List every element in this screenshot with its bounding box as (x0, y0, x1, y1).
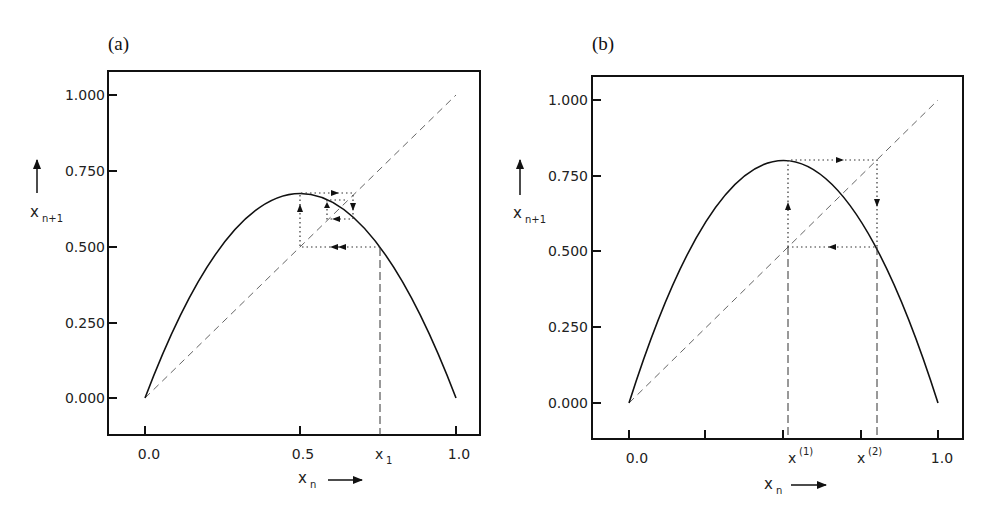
y-tick-label: 1.000 (548, 92, 588, 108)
y-tick-label: 0.750 (548, 168, 588, 184)
svg-text:n+1: n+1 (42, 213, 63, 224)
y-tick-label: 0.000 (65, 390, 105, 406)
x1-cycle-label: x (788, 450, 796, 466)
svg-text:n: n (310, 479, 316, 490)
y-tick-label: 0.500 (548, 243, 588, 259)
svg-text:n+1: n+1 (525, 214, 546, 225)
x-tick-label: 0.5 (292, 446, 314, 462)
svg-text:n: n (776, 485, 782, 496)
x-tick-label: 0.0 (626, 450, 648, 466)
panel-b-y-label: x n+1 (513, 160, 546, 225)
x-tick-label: 1.0 (931, 450, 953, 466)
panel-a-x-axis: 0.0 0.5 1.0 x 1 (138, 426, 470, 466)
svg-text:x: x (30, 203, 39, 221)
y-tick-label: 0.250 (548, 319, 588, 335)
panel-a-x-label: x n (298, 469, 362, 490)
y-tick-label: 0.750 (65, 163, 105, 179)
svg-text:1: 1 (386, 455, 392, 466)
y-tick-label: 0.500 (65, 239, 105, 255)
y-tick-label: 0.250 (65, 315, 105, 331)
x2-cycle-label: x (857, 450, 865, 466)
cobweb-path (297, 190, 380, 250)
panel-b-label: (b) (592, 33, 614, 55)
svg-text:x: x (764, 475, 773, 493)
x-tick-label: 0.0 (138, 446, 160, 462)
y-tick-label: 0.000 (548, 395, 588, 411)
two-cycle-path (785, 157, 880, 250)
panel-a-label: (a) (108, 33, 129, 55)
svg-text:x: x (513, 204, 522, 222)
figure: (a) 1.000 0.750 0.500 0.250 0.000 x n+1 … (0, 0, 990, 516)
panel-b-y-axis: 1.000 0.750 0.500 0.250 0.000 (548, 92, 601, 411)
panel-a-y-axis: 1.000 0.750 0.500 0.250 0.000 (65, 87, 117, 406)
logistic-curve (629, 161, 938, 404)
panel-b-x-axis: 0.0 1.0 x (1) x (2) (626, 430, 953, 466)
x-tick-label: 1.0 (448, 446, 470, 462)
panel-b-x-label: x n (764, 475, 826, 496)
diagonal-line (629, 100, 938, 403)
y-tick-label: 1.000 (65, 87, 105, 103)
panel-a-y-label: x n+1 (30, 160, 63, 224)
svg-text:(2): (2) (868, 446, 882, 457)
x1-marker-label: x (375, 446, 383, 462)
panel-a: (a) 1.000 0.750 0.500 0.250 0.000 x n+1 … (30, 33, 480, 490)
logistic-curve (145, 194, 456, 399)
panel-b: (b) 1.000 0.750 0.500 0.250 0.000 x n+1 (513, 33, 963, 496)
svg-text:x: x (298, 469, 307, 487)
svg-text:(1): (1) (799, 446, 813, 457)
diagonal-line (145, 95, 456, 398)
